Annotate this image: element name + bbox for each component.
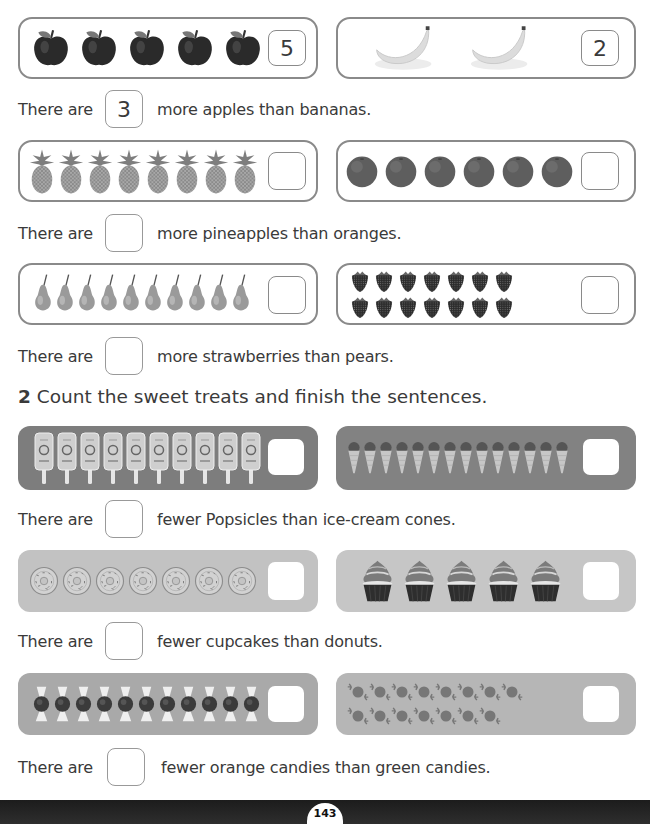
cupcake-count-box[interactable] [583,562,619,600]
pear-icon [164,271,186,315]
orange-candy-icon [115,682,136,726]
green-candy-icon [413,705,435,727]
pineapple-icon [202,147,230,195]
green-candy-icon [391,681,413,703]
donut-icon [95,566,125,596]
strawberry-items [349,267,517,321]
sentence-prefix: There are [18,632,93,651]
orange-items [345,150,574,192]
section-2-heading: 2 Count the sweet treats and finish the … [18,386,487,407]
popsicle-count-box[interactable] [268,439,304,475]
ice-cream-cone-icon [362,438,378,478]
pineapple-icon [173,147,201,195]
sentence-cupcakes-donuts: There are fewer cupcakes than donuts. [18,622,383,660]
cupcake-icon [359,557,396,605]
orange-icon [423,154,457,188]
green-candy-icon [457,681,479,703]
strawberry-count-box[interactable] [581,276,619,314]
apple-count-box[interactable]: 5 [268,30,306,66]
ice-cream-cone-icon [426,438,442,478]
orange-candy-icon [94,682,115,726]
pineapple-icon [28,147,56,195]
sentence-suffix: more apples than bananas. [157,100,371,119]
ice-cream-items [346,432,570,484]
donut-count-box[interactable] [268,562,304,600]
orange-candy-icon [73,682,94,726]
pineapple-count-box[interactable] [268,152,306,190]
apple-icon [222,26,264,70]
cupcake-icon [401,557,438,605]
answer-box[interactable] [107,748,145,786]
orange-candy-icon [178,682,199,726]
popsicle-icon [125,431,147,485]
pineapple-icon [115,147,143,195]
green-candy-count-box[interactable] [583,686,619,722]
sentence-prefix: There are [18,758,93,777]
cupcake-icon [527,557,564,605]
sentence-suffix: fewer cupcakes than donuts. [157,632,383,651]
popsicle-icon [56,431,78,485]
pear-icon [76,271,98,315]
answer-box[interactable]: 3 [105,90,143,128]
strawberry-icon [445,269,467,293]
strawberry-icon [373,269,395,293]
green-candy-icon [435,705,457,727]
sentence-prefix: There are [18,347,93,366]
banana-icon [468,23,534,71]
apple-items [30,23,264,73]
pear-icon [98,271,120,315]
strawberry-icon [469,269,491,293]
pineapple-icon [86,147,114,195]
ice-cream-cone-icon [394,438,410,478]
pear-icon [32,271,54,315]
orange-candy-items [31,679,262,729]
donut-icon [128,566,158,596]
green-candy-icon [347,705,369,727]
apple-icon [78,26,120,70]
answer-box[interactable] [105,337,143,375]
sentence-prefix: There are [18,100,93,119]
banana-items [372,22,534,72]
banana-count-box[interactable]: 2 [581,30,619,66]
cupcake-icon [443,557,480,605]
green-candy-icon [347,681,369,703]
green-candy-icon [457,705,479,727]
ice-cream-cone-icon [410,438,426,478]
pear-icon [142,271,164,315]
sentence-suffix: fewer orange candies than green candies. [161,758,490,777]
ice-cream-cone-icon [458,438,474,478]
green-candy-icon [391,705,413,727]
orange-candy-icon [52,682,73,726]
strawberry-icon [397,295,419,319]
strawberry-icon [493,269,515,293]
strawberry-icon [397,269,419,293]
ice-cream-cone-icon [490,438,506,478]
orange-count-box[interactable] [581,152,619,190]
answer-box[interactable] [105,500,143,538]
cupcake-icon [485,557,522,605]
ice-cream-count-box[interactable] [583,439,619,475]
donut-items [29,563,257,599]
pear-icon [230,271,252,315]
orange-candy-count-box[interactable] [268,686,304,722]
answer-box[interactable] [105,622,143,660]
donut-icon [161,566,191,596]
green-candy-icon [413,681,435,703]
sentence-strawberries-pears: There are more strawberries than pears. [18,337,394,375]
pear-count-box[interactable] [268,276,306,314]
green-candy-items [347,678,531,730]
answer-box[interactable] [105,214,143,252]
pineapple-icon [57,147,85,195]
strawberry-icon [373,295,395,319]
popsicle-icon [240,431,262,485]
orange-icon [345,154,379,188]
popsicle-icon [102,431,124,485]
orange-icon [384,154,418,188]
strawberry-icon [445,295,467,319]
popsicle-icon [148,431,170,485]
sentence-suffix: fewer Popsicles than ice-cream cones. [157,510,456,529]
strawberry-icon [421,269,443,293]
ice-cream-cone-icon [538,438,554,478]
popsicle-icon [171,431,193,485]
pear-items [32,268,252,318]
